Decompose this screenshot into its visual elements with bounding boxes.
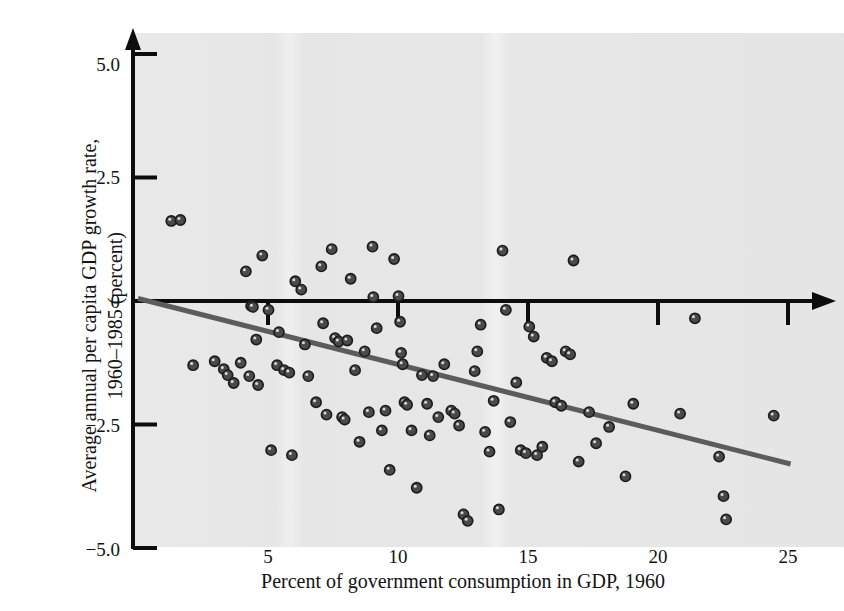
plot-background [133,33,844,547]
x-axis-title: Percent of government consumption in GDP… [133,570,793,593]
xtick-label-20: 20 [649,547,668,566]
ytick-label-5: 5.0 [55,55,120,74]
xtick-label-25: 25 [779,547,798,566]
xtick-label-5: 5 [263,547,273,566]
xtick-label-15: 15 [519,547,538,566]
scatter-plot-figure: 5.0 2.5 0 −2.5 −5.0 5 10 15 20 25 Averag… [0,0,844,611]
y-axis-title: Average annual per capita GDP growth rat… [77,81,128,551]
y-axis-title-line2: 1960–1985 (percent) [104,232,126,399]
y-axis-title-line1: Average annual per capita GDP growth rat… [78,139,100,493]
xtick-label-10: 10 [389,547,408,566]
